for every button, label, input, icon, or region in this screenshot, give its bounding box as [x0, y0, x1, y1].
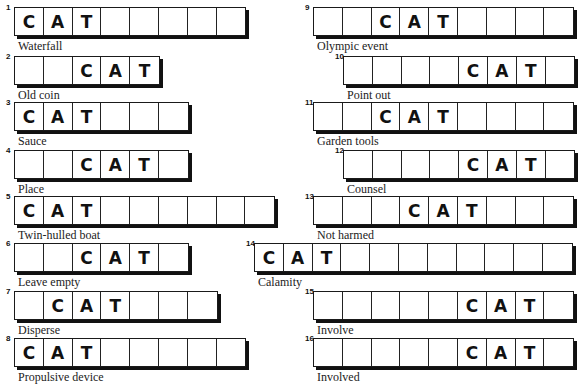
blank-letter-cell[interactable] — [402, 151, 431, 178]
blank-letter-cell[interactable] — [344, 57, 373, 84]
blank-letter-cell[interactable] — [159, 197, 188, 224]
blank-letter-cell[interactable] — [314, 197, 343, 224]
blank-letter-cell[interactable] — [245, 197, 274, 224]
blank-letter-cell[interactable] — [457, 244, 486, 271]
entry-number: 9 — [305, 3, 309, 12]
blank-letter-cell[interactable] — [15, 57, 44, 84]
blank-letter-cell[interactable] — [372, 292, 401, 319]
given-letter-cell: A — [44, 197, 73, 224]
blank-letter-cell[interactable] — [428, 244, 457, 271]
blank-letter-cell[interactable] — [487, 8, 516, 35]
blank-letter-cell[interactable] — [399, 244, 428, 271]
blank-letter-cell[interactable] — [159, 292, 188, 319]
clue-text: Counsel — [347, 182, 386, 197]
blank-letter-cell[interactable] — [130, 292, 159, 319]
blank-letter-cell[interactable] — [400, 292, 429, 319]
blank-letter-cell[interactable] — [188, 292, 217, 319]
blank-letter-cell[interactable] — [544, 339, 573, 366]
blank-letter-cell[interactable] — [372, 339, 401, 366]
blank-letter-cell[interactable] — [546, 151, 575, 178]
blank-letter-cell[interactable] — [485, 244, 514, 271]
blank-letter-cell[interactable] — [159, 151, 188, 178]
answer-grid: CAT — [313, 338, 574, 367]
blank-letter-cell[interactable] — [430, 151, 459, 178]
entry-number: 2 — [6, 52, 10, 61]
blank-letter-cell[interactable] — [343, 292, 372, 319]
blank-letter-cell[interactable] — [516, 197, 545, 224]
blank-letter-cell[interactable] — [487, 197, 516, 224]
given-letter-cell: C — [459, 57, 488, 84]
blank-letter-cell[interactable] — [458, 8, 487, 35]
blank-letter-cell[interactable] — [514, 244, 543, 271]
blank-letter-cell[interactable] — [544, 197, 573, 224]
blank-letter-cell[interactable] — [130, 197, 159, 224]
blank-letter-cell[interactable] — [159, 103, 188, 130]
blank-letter-cell[interactable] — [314, 8, 343, 35]
given-letter-cell: A — [488, 151, 517, 178]
blank-letter-cell[interactable] — [101, 8, 130, 35]
blank-letter-cell[interactable] — [487, 103, 516, 130]
blank-letter-cell[interactable] — [15, 292, 44, 319]
answer-grid: CAT — [313, 291, 574, 320]
blank-letter-cell[interactable] — [343, 8, 372, 35]
blank-letter-cell[interactable] — [429, 339, 458, 366]
blank-letter-cell[interactable] — [130, 8, 159, 35]
given-letter-cell: T — [130, 151, 159, 178]
blank-letter-cell[interactable] — [314, 103, 343, 130]
blank-letter-cell[interactable] — [101, 197, 130, 224]
blank-letter-cell[interactable] — [217, 339, 246, 366]
given-letter-cell: T — [517, 151, 546, 178]
blank-letter-cell[interactable] — [516, 103, 545, 130]
blank-letter-cell[interactable] — [217, 8, 246, 35]
blank-letter-cell[interactable] — [370, 244, 399, 271]
clue-text: Olympic event — [317, 39, 388, 54]
blank-letter-cell[interactable] — [188, 339, 217, 366]
blank-letter-cell[interactable] — [544, 103, 573, 130]
given-letter-cell: A — [488, 57, 517, 84]
blank-letter-cell[interactable] — [430, 57, 459, 84]
blank-letter-cell[interactable] — [44, 57, 73, 84]
entry-number: 4 — [6, 146, 10, 155]
blank-letter-cell[interactable] — [344, 151, 373, 178]
blank-letter-cell[interactable] — [544, 8, 573, 35]
blank-letter-cell[interactable] — [314, 292, 343, 319]
given-letter-cell: C — [73, 151, 102, 178]
blank-letter-cell[interactable] — [429, 292, 458, 319]
blank-letter-cell[interactable] — [543, 244, 572, 271]
blank-letter-cell[interactable] — [402, 57, 431, 84]
blank-letter-cell[interactable] — [516, 8, 545, 35]
blank-letter-cell[interactable] — [101, 103, 130, 130]
blank-letter-cell[interactable] — [546, 57, 575, 84]
blank-letter-cell[interactable] — [343, 103, 372, 130]
clue-text: Not harmed — [317, 228, 374, 243]
given-letter-cell: A — [487, 339, 516, 366]
blank-letter-cell[interactable] — [15, 151, 44, 178]
clue-text: Old coin — [18, 88, 60, 103]
blank-letter-cell[interactable] — [159, 244, 188, 271]
blank-letter-cell[interactable] — [343, 197, 372, 224]
blank-letter-cell[interactable] — [372, 197, 401, 224]
blank-letter-cell[interactable] — [343, 339, 372, 366]
blank-letter-cell[interactable] — [44, 244, 73, 271]
blank-letter-cell[interactable] — [458, 103, 487, 130]
blank-letter-cell[interactable] — [44, 151, 73, 178]
blank-letter-cell[interactable] — [400, 339, 429, 366]
blank-letter-cell[interactable] — [101, 339, 130, 366]
given-letter-cell: T — [458, 197, 487, 224]
answer-grid: CAT — [14, 338, 246, 367]
given-letter-cell: A — [429, 197, 458, 224]
blank-letter-cell[interactable] — [217, 197, 246, 224]
blank-letter-cell[interactable] — [159, 8, 188, 35]
blank-letter-cell[interactable] — [314, 339, 343, 366]
blank-letter-cell[interactable] — [544, 292, 573, 319]
blank-letter-cell[interactable] — [373, 57, 402, 84]
blank-letter-cell[interactable] — [188, 8, 217, 35]
blank-letter-cell[interactable] — [130, 103, 159, 130]
given-letter-cell: A — [487, 292, 516, 319]
blank-letter-cell[interactable] — [373, 151, 402, 178]
blank-letter-cell[interactable] — [130, 339, 159, 366]
blank-letter-cell[interactable] — [159, 339, 188, 366]
blank-letter-cell[interactable] — [188, 197, 217, 224]
blank-letter-cell[interactable] — [15, 244, 44, 271]
blank-letter-cell[interactable] — [341, 244, 370, 271]
